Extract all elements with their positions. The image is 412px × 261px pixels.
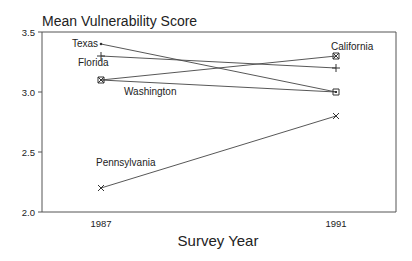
chart-title: Mean Vulnerability Score — [42, 13, 197, 29]
x-marker-icon — [333, 113, 339, 119]
series-california — [101, 56, 336, 80]
x-axis-label: Survey Year — [178, 232, 259, 249]
label-washington: Washington — [124, 86, 176, 97]
dot-marker-icon — [335, 91, 337, 93]
label-florida: Florida — [78, 57, 109, 68]
x-marker-icon — [98, 185, 104, 191]
series-florida — [101, 56, 336, 68]
x-tick-label: 1991 — [325, 218, 346, 229]
series-pennsylvania — [101, 116, 336, 188]
label-pennsylvania: Pennsylvania — [96, 157, 156, 168]
y-tick-label: 2.5 — [22, 147, 35, 158]
x-tick-label: 1987 — [90, 218, 111, 229]
y-tick-label: 3.0 — [22, 87, 35, 98]
dot-marker-icon — [100, 43, 103, 46]
line-chart: Mean Vulnerability Score 3.5 3.0 2.5 2.0… — [0, 0, 412, 261]
plus-marker-icon — [332, 64, 340, 72]
label-texas: Texas — [72, 38, 98, 49]
label-california: California — [331, 41, 374, 52]
x-axis: 1987 1991 — [90, 218, 346, 229]
markers — [97, 43, 340, 191]
y-tick-label: 3.5 — [22, 27, 35, 38]
series-labels: Texas Florida Washington California Penn… — [72, 38, 374, 168]
y-tick-label: 2.0 — [22, 207, 35, 218]
y-axis: 3.5 3.0 2.5 2.0 — [22, 27, 42, 218]
